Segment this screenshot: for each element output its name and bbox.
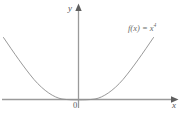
plot-canvas <box>0 0 182 116</box>
x-axis-label: x <box>172 101 176 110</box>
function-graph-figure: y x 0 f(x) = x4 <box>0 0 182 116</box>
function-equation-base: f(x) = x <box>128 23 154 33</box>
y-axis-group <box>75 4 81 109</box>
function-equation-exponent: 4 <box>154 22 157 28</box>
y-axis-arrowhead <box>75 4 81 12</box>
origin-label: 0 <box>73 101 77 110</box>
function-equation-label: f(x) = x4 <box>128 24 156 33</box>
y-axis-label: y <box>68 4 72 13</box>
